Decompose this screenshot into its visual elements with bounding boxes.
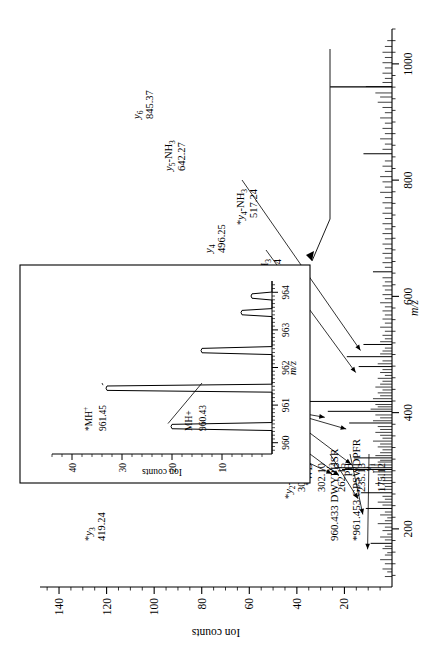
x-axis-tick-labels: 2004006008001000 bbox=[402, 52, 414, 537]
x-tick-label: 800 bbox=[402, 171, 414, 189]
rotated-figure-group: 2004006008001000 20406080100120140 m/z I… bbox=[0, 0, 442, 659]
inset-x-tick-label: 960 bbox=[281, 435, 291, 450]
peak-label-419.24: *y3 bbox=[83, 527, 97, 541]
peak-value-517.24: 517.24 bbox=[248, 188, 259, 218]
y-axis-ticks bbox=[47, 587, 380, 594]
inset-frame bbox=[20, 265, 310, 483]
leader-arrowhead bbox=[351, 367, 356, 373]
leader-arrowhead bbox=[365, 544, 370, 550]
x-axis-ticks bbox=[392, 29, 399, 575]
inset-plot: 960961962963964 10203040 m/z Ion counts … bbox=[20, 265, 310, 483]
peak-label-496.25: y4 bbox=[203, 244, 217, 254]
peak-value-419.24: 419.24 bbox=[96, 511, 107, 541]
y-tick-label: 40 bbox=[291, 598, 303, 610]
inset-y-tick-label: 10 bbox=[218, 463, 228, 473]
sequence-label-2: *961.453 GPSWDPFR bbox=[350, 438, 362, 541]
inset-x-tick-label: 963 bbox=[281, 323, 291, 338]
callout-line bbox=[312, 49, 330, 261]
y-tick-label: 80 bbox=[196, 598, 208, 610]
x-tick-label: 400 bbox=[402, 404, 414, 422]
y-axis-title: Ion counts bbox=[191, 627, 240, 639]
peak-value-175.12: 175.12 bbox=[376, 463, 387, 492]
leader-arrowhead bbox=[340, 425, 346, 429]
y-tick-label: 60 bbox=[243, 598, 255, 610]
peak-value-845.37: 845.37 bbox=[144, 90, 155, 119]
y-tick-label: 20 bbox=[338, 598, 350, 610]
inset-y-tick-label: 40 bbox=[68, 463, 78, 473]
peak-label-845.37: y6 bbox=[131, 110, 145, 120]
inset-callout-leader bbox=[306, 49, 330, 261]
y-tick-label: 140 bbox=[53, 598, 65, 616]
peak-label-517.24: *y4-NH3 bbox=[235, 189, 249, 225]
inset-x-tick-label: 961 bbox=[281, 398, 291, 413]
inset-value-star-mh: 961.45 bbox=[98, 405, 108, 431]
peak-label-642.27: y5-NH3 bbox=[163, 140, 177, 172]
inset-value-mh: 960.43 bbox=[198, 405, 208, 431]
peak-value-642.27: 642.27 bbox=[176, 142, 187, 171]
inset-y-tick-label: 30 bbox=[118, 463, 128, 473]
inset-y-axis-title: Ion counts bbox=[142, 467, 182, 477]
y-axis-tick-labels: 20406080100120140 bbox=[53, 598, 350, 616]
y-tick-label: 100 bbox=[148, 598, 160, 616]
inset-x-axis-title: m/z bbox=[287, 361, 298, 375]
mass-spectrum-figure: 2004006008001000 20406080100120140 m/z I… bbox=[0, 0, 442, 659]
leader-arrowhead bbox=[355, 345, 360, 351]
y-tick-label: 120 bbox=[101, 598, 113, 616]
figure-canvas: 2004006008001000 20406080100120140 m/z I… bbox=[0, 0, 442, 659]
x-axis-title: m/z bbox=[408, 299, 420, 316]
inset-x-tick-label: 964 bbox=[281, 285, 291, 300]
x-tick-label: 1000 bbox=[402, 52, 414, 75]
leader-arrowhead bbox=[319, 414, 325, 419]
inset-label-mh: MH+ bbox=[184, 410, 194, 431]
sequence-label-1: 960.433 DWYPHSR bbox=[328, 448, 340, 541]
x-tick-label: 200 bbox=[402, 520, 414, 538]
peak-value-496.25: 496.25 bbox=[216, 224, 227, 253]
